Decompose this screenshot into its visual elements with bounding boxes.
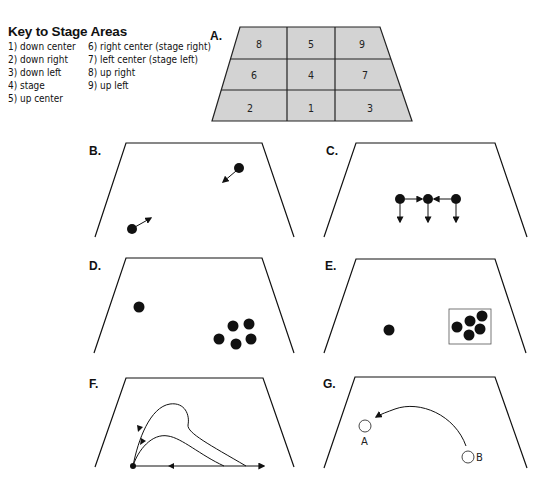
actor-dot — [465, 316, 476, 327]
panel-label-e: E. — [325, 259, 336, 273]
movement-path-outer-curve — [133, 404, 246, 466]
panel-f: F. — [89, 377, 294, 469]
panel-e: E. — [324, 259, 526, 353]
actor-dot — [452, 322, 463, 333]
panel-g: G. A B — [323, 377, 527, 468]
stage-outline — [95, 143, 294, 237]
movement-path-inner-curve — [133, 436, 224, 466]
actor-dot — [244, 319, 255, 330]
panel-label-g: G. — [323, 377, 336, 391]
stage-area-2: 2 — [247, 102, 253, 114]
actor-dot — [228, 321, 239, 332]
actor-dot — [384, 325, 395, 336]
panel-label-b: B. — [89, 144, 101, 158]
stage-outline — [94, 258, 294, 353]
panel-c: C. — [324, 143, 527, 237]
actor-dot — [477, 311, 488, 322]
stage-area-1: 1 — [308, 102, 314, 114]
actor-dot — [475, 324, 486, 335]
arrow-icon — [137, 425, 143, 432]
stage-area-5: 5 — [308, 38, 314, 50]
stage-outline — [324, 259, 526, 353]
movement-arrow — [135, 218, 151, 227]
stage-area-8: 8 — [256, 38, 262, 50]
stage-area-4: 4 — [308, 69, 314, 81]
actor-dot — [246, 334, 257, 345]
stage-area-7: 7 — [362, 69, 368, 81]
stage-diagrams: A. 8 5 9 6 4 7 2 1 3 B. C. — [0, 0, 539, 491]
panel-a: A. 8 5 9 6 4 7 2 1 3 — [210, 27, 412, 121]
stage-outline — [324, 377, 527, 468]
arrow-icon — [168, 463, 174, 469]
stage-area-6: 6 — [251, 69, 257, 81]
position-b-marker — [462, 451, 474, 463]
movement-arrow — [223, 171, 236, 182]
actor-dot — [423, 194, 433, 204]
position-b-label: B — [476, 452, 483, 463]
position-a-label: A — [361, 436, 368, 447]
panel-label-d: D. — [89, 259, 101, 273]
panel-label-a: A. — [210, 29, 222, 43]
stage-area-3: 3 — [367, 102, 373, 114]
panel-label-c: C. — [326, 144, 338, 158]
actor-dot — [451, 194, 461, 204]
position-a-marker — [359, 420, 371, 432]
actor-dot — [395, 194, 405, 204]
actor-dot — [464, 330, 475, 341]
actor-dot — [130, 463, 136, 469]
stage-outline — [95, 378, 294, 467]
panel-b: B. — [89, 143, 294, 237]
cross-movement-arc — [376, 406, 466, 446]
stage-outline — [324, 143, 527, 237]
panel-label-f: F. — [89, 377, 98, 391]
actor-dot — [214, 334, 225, 345]
actor-dot — [127, 224, 137, 234]
stage-area-9: 9 — [359, 38, 365, 50]
actor-dot — [134, 302, 145, 313]
panel-d: D. — [89, 258, 294, 353]
actor-dot — [231, 339, 242, 350]
arrow-icon — [140, 438, 146, 445]
